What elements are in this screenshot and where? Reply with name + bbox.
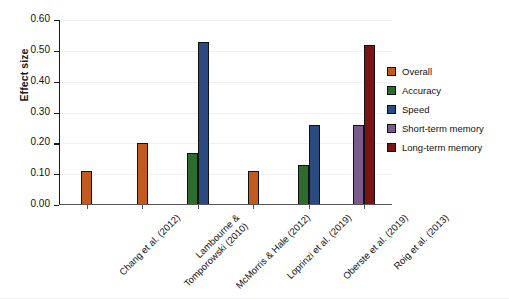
legend-item: Accuracy	[387, 81, 484, 100]
y-axis-tick-label: 0.40	[31, 75, 50, 86]
x-axis-line	[59, 204, 392, 205]
bar	[353, 125, 364, 205]
y-axis-title: Effect size	[18, 15, 30, 135]
x-axis-tick	[253, 205, 254, 209]
y-axis-line	[59, 20, 60, 205]
legend-swatch	[387, 67, 396, 76]
bar	[137, 143, 148, 205]
bar	[309, 125, 320, 205]
y-axis-tick-label: 0.30	[31, 106, 50, 117]
x-axis-tick	[364, 205, 365, 209]
x-axis-tick	[87, 205, 88, 209]
legend-item: Overall	[387, 62, 484, 81]
bar	[248, 171, 259, 205]
x-axis-tick	[142, 205, 143, 209]
gridline	[59, 113, 392, 114]
bar	[198, 42, 209, 205]
gridline	[59, 82, 392, 83]
gridline	[59, 143, 392, 144]
bar	[298, 165, 309, 205]
legend-swatch	[387, 143, 396, 152]
legend-label: Long-term memory	[402, 142, 482, 153]
legend-label: Overall	[402, 66, 432, 77]
effect-size-bar-chart: Effect size 0.000.100.200.300.400.500.60…	[0, 0, 509, 299]
legend-item: Long-term memory	[387, 138, 484, 157]
legend-label: Accuracy	[402, 85, 441, 96]
legend-swatch	[387, 124, 396, 133]
bar	[187, 153, 198, 205]
bar	[364, 45, 375, 205]
legend: OverallAccuracySpeedShort-term memoryLon…	[387, 62, 484, 157]
y-axis-tick-label: 0.20	[31, 136, 50, 147]
gridline	[59, 174, 392, 175]
plot-area: 0.000.100.200.300.400.500.60	[59, 20, 392, 205]
legend-swatch	[387, 86, 396, 95]
legend-label: Speed	[402, 104, 429, 115]
y-axis-tick-label: 0.60	[31, 13, 50, 24]
x-axis-tick	[198, 205, 199, 209]
legend-item: Speed	[387, 100, 484, 119]
x-axis-label: Chang et al. (2012)	[117, 212, 183, 278]
y-axis-tick-label: 0.50	[31, 44, 50, 55]
legend-label: Short-term memory	[402, 123, 484, 134]
bar	[81, 171, 92, 205]
caption-rule	[0, 298, 509, 299]
legend-swatch	[387, 105, 396, 114]
y-axis-tick: 0.00	[54, 205, 59, 206]
legend-item: Short-term memory	[387, 119, 484, 138]
gridline	[59, 51, 392, 52]
x-axis-tick	[309, 205, 310, 209]
y-axis-tick-label: 0.10	[31, 167, 50, 178]
y-axis-tick-label: 0.00	[31, 198, 50, 209]
gridline	[59, 20, 392, 21]
